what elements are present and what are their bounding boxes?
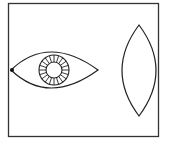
iris-spoke bbox=[45, 76, 49, 82]
diagram-frame bbox=[9, 4, 159, 137]
iris-spoke bbox=[40, 65, 47, 67]
iris-spoke bbox=[62, 65, 69, 67]
eye-outline bbox=[11, 52, 98, 88]
eye-corner-marker bbox=[10, 68, 14, 72]
iris-spoke bbox=[56, 56, 58, 63]
eye-lens-diagram bbox=[0, 0, 169, 144]
pupil-circle bbox=[46, 62, 62, 78]
convex-lens bbox=[122, 25, 156, 116]
iris-spoke bbox=[49, 78, 51, 85]
iris-spoke bbox=[56, 78, 58, 85]
iris-spoke bbox=[59, 76, 63, 82]
iris-spoke bbox=[62, 72, 69, 74]
iris-spoke bbox=[45, 58, 49, 64]
iris-spoke bbox=[40, 72, 47, 74]
iris-spoke bbox=[49, 56, 51, 63]
iris-spoke bbox=[42, 75, 48, 79]
iris-spoke bbox=[59, 58, 63, 64]
iris-spoke bbox=[60, 61, 66, 65]
iris-spoke bbox=[60, 75, 66, 79]
iris-spoke bbox=[42, 61, 48, 65]
eye-icon bbox=[10, 52, 98, 88]
